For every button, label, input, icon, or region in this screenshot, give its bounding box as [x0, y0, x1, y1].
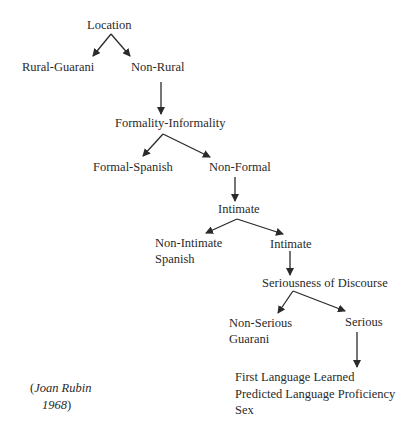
node-location: Location	[87, 17, 131, 33]
citation: (Joan Rubin 1968)	[30, 380, 91, 414]
edge-location-nonrural	[111, 34, 130, 56]
edge-intimate-intimate	[237, 219, 283, 234]
edge-formality-formal	[143, 134, 163, 156]
node-non-formal: Non-Formal	[209, 159, 271, 175]
node-non-intimate-line1: Non-Intimate	[155, 235, 222, 251]
node-non-intimate-spanish: Non-Intimate Spanish	[155, 235, 222, 267]
node-non-intimate-line2: Spanish	[155, 251, 222, 267]
node-seriousness-of-discourse: Seriousness of Discourse	[262, 275, 388, 291]
node-non-serious-line2: Guarani	[229, 331, 292, 347]
node-non-serious-line1: Non-Serious	[229, 315, 292, 331]
edge-seriousness-nonserious	[278, 291, 293, 313]
edge-intimate-nonintimate	[206, 219, 237, 233]
citation-close-paren: )	[67, 398, 71, 412]
node-intimate-question: Intimate	[218, 201, 260, 217]
node-factors-list: First Language Learned Predicted Languag…	[235, 369, 395, 419]
node-intimate: Intimate	[270, 236, 312, 252]
factor-sex: Sex	[235, 402, 395, 419]
node-non-serious-guarani: Non-Serious Guarani	[229, 315, 292, 347]
citation-line1: (Joan Rubin	[30, 380, 91, 397]
factor-predicted-proficiency: Predicted Language Proficiency	[235, 386, 395, 403]
node-serious: Serious	[345, 314, 383, 330]
edge-formality-nonformal	[163, 134, 210, 157]
edge-location-rural	[93, 34, 111, 56]
citation-author: Joan Rubin	[34, 381, 91, 395]
node-non-rural: Non-Rural	[131, 59, 184, 75]
node-formality-informality: Formality-Informality	[115, 115, 225, 131]
citation-year: 1968	[42, 398, 67, 412]
node-formal-spanish: Formal-Spanish	[93, 159, 173, 175]
node-rural-guarani: Rural-Guarani	[22, 59, 94, 75]
citation-line2: 1968)	[30, 397, 91, 414]
diagram-canvas: Location Rural-Guarani Non-Rural Formali…	[0, 0, 418, 441]
edge-seriousness-serious	[293, 291, 345, 311]
factor-first-language: First Language Learned	[235, 369, 395, 386]
